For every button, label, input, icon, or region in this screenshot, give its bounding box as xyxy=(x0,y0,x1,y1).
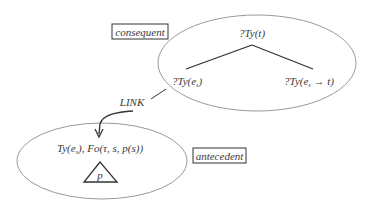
antecedent-formula: Ty(es), Fo(τ, s, p(s)) xyxy=(57,142,143,155)
left-branch xyxy=(186,45,252,69)
root-node: ?Ty(t) xyxy=(239,27,265,40)
link-arrow xyxy=(99,111,133,134)
subtree-label: p xyxy=(96,169,103,181)
link-connector xyxy=(151,89,166,99)
link-label: LINK xyxy=(119,96,145,108)
left-daughter-node: ?Ty(es) xyxy=(172,75,203,88)
right-daughter-node: ?Ty(es → t) xyxy=(284,75,334,88)
right-branch xyxy=(252,45,313,69)
diagram-canvas: consequent antecedent ?Ty(t) ?Ty(es) ?Ty… xyxy=(0,0,367,210)
antecedent-label: antecedent xyxy=(196,150,245,162)
antecedent-ellipse xyxy=(17,123,187,199)
consequent-label: consequent xyxy=(115,26,165,38)
